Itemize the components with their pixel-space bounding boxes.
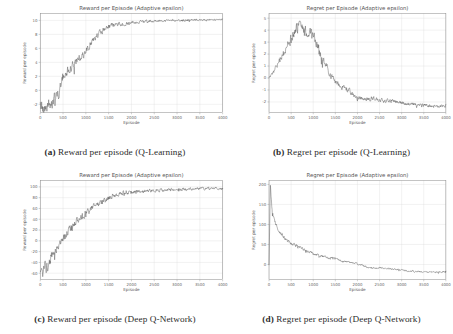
y-tick-label: 20 xyxy=(32,227,37,232)
x-tick-label: 1000 xyxy=(308,115,318,120)
caption-d-text: Regret per episode (Deep Q-Network) xyxy=(276,314,420,324)
y-tick-label: 2 xyxy=(264,51,267,56)
chart-title: Reward per Episode (Adaptive epsilon) xyxy=(79,172,183,179)
y-tick-label: 5 xyxy=(264,16,267,21)
chart-b: Regret per Episode (Adaptive epsilon)050… xyxy=(230,1,453,147)
y-tick-label: -2 xyxy=(262,99,266,104)
chart-d: Regret per Episode (Adaptive epsilon)050… xyxy=(230,168,453,314)
x-tick-label: 2500 xyxy=(375,115,385,120)
chart-title: Reward per Episode (Adaptive epsilon) xyxy=(79,5,183,12)
y-tick-label: 100 xyxy=(30,184,38,189)
x-tick-label: 4000 xyxy=(441,282,451,287)
y-tick-label: 80 xyxy=(32,195,37,200)
x-tick-label: 3500 xyxy=(195,282,205,287)
y-axis-label: Reward per episode xyxy=(22,209,27,251)
caption-d: (d) Regret per episode (Deep Q-Network) xyxy=(262,314,420,324)
x-tick-label: 0 xyxy=(268,282,271,287)
y-tick-label: 3 xyxy=(264,40,267,45)
y-axis-label: Regret per episode xyxy=(251,43,256,83)
x-tick-label: 3500 xyxy=(195,115,205,120)
x-tick-label: 3500 xyxy=(419,282,429,287)
x-tick-label: 1000 xyxy=(308,282,318,287)
x-tick-label: 4000 xyxy=(218,282,228,287)
chart-c: Reward per Episode (Adaptive epsilon)050… xyxy=(0,168,230,314)
x-tick-label: 500 xyxy=(59,282,67,287)
chart-d-svg: Regret per Episode (Adaptive epsilon)050… xyxy=(230,168,453,314)
caption-a: (a) Reward per episode (Q-Learning) xyxy=(45,147,186,157)
x-tick-label: 4000 xyxy=(218,115,228,120)
x-tick-label: 1500 xyxy=(330,282,340,287)
y-tick-label: 8 xyxy=(35,32,38,37)
y-tick-label: 2 xyxy=(35,74,38,79)
y-tick-label: 0 xyxy=(35,88,38,93)
x-tick-label: 2000 xyxy=(126,115,136,120)
y-tick-label: -40 xyxy=(31,260,38,265)
y-tick-label: 6 xyxy=(35,46,38,51)
x-tick-label: 2000 xyxy=(352,282,362,287)
y-tick-label: -60 xyxy=(31,271,38,276)
y-tick-label: -20 xyxy=(31,249,38,254)
x-axis-label: Episode xyxy=(123,120,140,125)
panel-d: Regret per Episode (Adaptive epsilon)050… xyxy=(230,167,453,334)
y-tick-label: 40 xyxy=(32,217,37,222)
caption-a-label: (a) xyxy=(45,147,56,157)
y-tick-label: 10 xyxy=(32,18,37,23)
x-tick-label: 1500 xyxy=(330,115,340,120)
x-tick-label: 0 xyxy=(268,115,271,120)
x-tick-label: 2000 xyxy=(126,282,136,287)
y-axis-label: Reward per episode xyxy=(22,42,27,84)
y-tick-label: -1 xyxy=(262,87,266,92)
x-tick-label: 2000 xyxy=(352,115,362,120)
caption-c-label: (c) xyxy=(34,314,45,324)
y-tick-label: 0 xyxy=(35,238,38,243)
y-tick-label: 50 xyxy=(261,242,266,247)
x-tick-label: 500 xyxy=(287,115,295,120)
x-tick-label: 3000 xyxy=(397,115,407,120)
chart-title: Regret per Episode (Adaptive epsilon) xyxy=(306,172,408,179)
x-tick-label: 1500 xyxy=(104,115,114,120)
x-tick-label: 2500 xyxy=(149,115,159,120)
chart-a: Reward per Episode (Adaptive epsilon)050… xyxy=(0,1,230,147)
x-tick-label: 500 xyxy=(287,282,295,287)
caption-d-label: (d) xyxy=(262,314,274,324)
panel-c: Reward per Episode (Adaptive epsilon)050… xyxy=(0,167,230,334)
x-tick-label: 3000 xyxy=(397,282,407,287)
rl-training-curves-figure: Reward per Episode (Adaptive epsilon)050… xyxy=(0,0,453,334)
x-tick-label: 1500 xyxy=(104,282,114,287)
y-axis-label: Regret per episode xyxy=(251,210,256,250)
x-tick-label: 2500 xyxy=(149,282,159,287)
y-tick-label: 4 xyxy=(35,60,38,65)
y-tick-label: 200 xyxy=(259,182,267,187)
caption-c: (c) Reward per episode (Deep Q-Network) xyxy=(34,314,195,324)
y-tick-label: 60 xyxy=(32,206,37,211)
y-tick-label: -2 xyxy=(34,102,38,107)
x-axis-label: Episode xyxy=(349,120,366,125)
chart-a-svg: Reward per Episode (Adaptive epsilon)050… xyxy=(0,1,230,147)
x-axis-label: Episode xyxy=(123,287,140,292)
x-tick-label: 1000 xyxy=(81,115,91,120)
y-tick-label: 0 xyxy=(264,75,267,80)
x-tick-label: 0 xyxy=(39,115,42,120)
x-tick-label: 1000 xyxy=(81,282,91,287)
x-tick-label: 4000 xyxy=(441,115,451,120)
caption-a-text: Reward per episode (Q-Learning) xyxy=(58,147,185,157)
y-tick-label: 0 xyxy=(264,262,267,267)
chart-b-svg: Regret per Episode (Adaptive epsilon)050… xyxy=(230,1,453,147)
caption-b: (b) Regret per episode (Q-Learning) xyxy=(273,147,410,157)
caption-b-text: Regret per episode (Q-Learning) xyxy=(287,147,410,157)
y-tick-label: 4 xyxy=(264,28,267,33)
x-tick-label: 3500 xyxy=(419,115,429,120)
chart-c-svg: Reward per Episode (Adaptive epsilon)050… xyxy=(0,168,230,314)
chart-title: Regret per Episode (Adaptive epsilon) xyxy=(306,5,408,12)
x-tick-label: 2500 xyxy=(375,282,385,287)
x-axis-label: Episode xyxy=(349,287,366,292)
x-tick-label: 500 xyxy=(59,115,67,120)
panel-b: Regret per Episode (Adaptive epsilon)050… xyxy=(230,0,453,167)
panel-a: Reward per Episode (Adaptive epsilon)050… xyxy=(0,0,230,167)
y-tick-label: 100 xyxy=(259,222,267,227)
x-tick-label: 3000 xyxy=(172,115,182,120)
x-tick-label: 3000 xyxy=(172,282,182,287)
y-tick-label: 150 xyxy=(259,202,267,207)
caption-b-label: (b) xyxy=(273,147,285,157)
y-tick-label: 1 xyxy=(264,63,267,68)
